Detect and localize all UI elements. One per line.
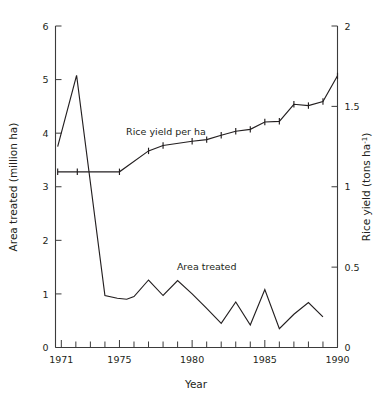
axes-group — [56, 26, 338, 348]
right-axis-ticks: 00.511.52 — [332, 21, 360, 354]
right-tick-label: 0 — [345, 342, 351, 353]
x-axis-title: Year — [184, 378, 208, 390]
series-annotation-rice-yield-per-ha: Rice yield per ha — [126, 126, 206, 137]
right-tick-label: 1.5 — [345, 101, 360, 112]
left-tick-label: 0 — [42, 342, 48, 353]
left-axis-ticks: 0123456 — [42, 21, 61, 354]
left-tick-label: 2 — [42, 235, 48, 246]
x-tick-label: 1980 — [180, 354, 204, 365]
x-tick-label: 1971 — [49, 354, 73, 365]
series-group — [58, 73, 338, 329]
line-chart: 0123456 00.511.52 19711975198019851990 A… — [0, 0, 382, 400]
right-tick-label: 2 — [345, 21, 351, 32]
x-tick-label: 1975 — [107, 354, 131, 365]
x-axis-ticks: 19711975198019851990 — [49, 340, 349, 365]
right-tick-label: 0.5 — [345, 262, 360, 273]
series-line-area-treated — [58, 75, 323, 328]
chart-container: 0123456 00.511.52 19711975198019851990 A… — [0, 0, 382, 400]
x-tick-label: 1990 — [325, 354, 349, 365]
left-axis-title: Area treated (million ha) — [7, 123, 19, 252]
series-annotation-area-treated: Area treated — [177, 261, 237, 272]
series-annotations: Area treatedRice yield per ha — [126, 126, 236, 271]
left-tick-label: 3 — [42, 181, 48, 192]
left-tick-label: 6 — [42, 21, 48, 32]
left-tick-label: 1 — [42, 289, 48, 300]
x-tick-label: 1985 — [253, 354, 277, 365]
left-tick-label: 5 — [42, 74, 48, 85]
series-line-rice-yield-per-ha — [58, 76, 338, 172]
right-tick-label: 1 — [345, 181, 351, 192]
right-axis-title: Rice yield (tons ha-1) — [360, 133, 372, 242]
left-tick-label: 4 — [42, 128, 48, 139]
